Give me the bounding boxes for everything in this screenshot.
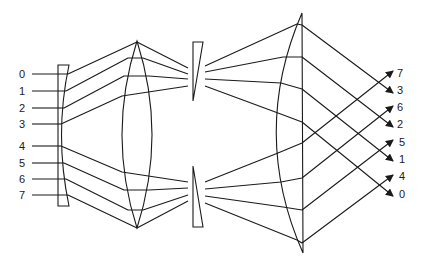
output-label-7: 7 — [397, 67, 403, 79]
optical-components — [58, 13, 303, 253]
input-plate — [58, 65, 69, 206]
input-labels: 0 1 2 3 4 5 6 7 — [19, 68, 25, 201]
ray-6 — [66, 179, 188, 210]
output-label-0: 0 — [399, 188, 405, 200]
ray-3-out — [205, 86, 393, 196]
output-labels: 7 3 6 2 5 1 4 0 — [397, 67, 405, 200]
output-label-4: 4 — [399, 170, 405, 182]
ray-0-out — [205, 24, 393, 93]
input-label-6: 6 — [19, 173, 25, 185]
output-label-2: 2 — [397, 118, 403, 130]
plano-convex-lens — [276, 13, 303, 253]
rays — [32, 24, 393, 243]
input-label-0: 0 — [19, 68, 25, 80]
output-label-6: 6 — [397, 101, 403, 113]
input-label-1: 1 — [19, 85, 25, 97]
input-label-3: 3 — [19, 118, 25, 130]
lower-wedge-prism — [193, 166, 203, 227]
ray-7 — [68, 195, 188, 228]
output-label-5: 5 — [399, 136, 405, 148]
ray-5-out — [205, 106, 393, 189]
input-label-7: 7 — [19, 189, 25, 201]
ray-1-out — [205, 57, 393, 127]
input-label-5: 5 — [19, 157, 25, 169]
output-label-1: 1 — [399, 153, 405, 165]
ray-6-out — [205, 140, 393, 210]
ray-3 — [61, 86, 188, 124]
ray-2 — [64, 76, 188, 108]
output-label-3: 3 — [397, 84, 403, 96]
ray-2-out — [205, 79, 393, 161]
ray-1 — [66, 58, 188, 91]
biconvex-lens — [122, 41, 152, 228]
optical-ray-diagram: 0 1 2 3 4 5 6 7 — [0, 0, 427, 269]
input-label-4: 4 — [19, 140, 25, 152]
input-label-2: 2 — [19, 102, 25, 114]
upper-wedge-prism — [193, 42, 203, 101]
